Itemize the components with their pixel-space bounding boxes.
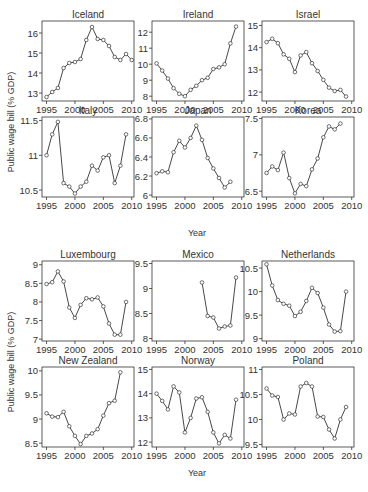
data-point-marker	[124, 300, 128, 304]
x-tick-label: 2010	[231, 200, 252, 211]
x-tick-label: 2005	[203, 344, 224, 355]
y-tick-label: 11	[28, 150, 38, 161]
data-point-marker	[183, 431, 187, 435]
x-tick-label: 1995	[256, 200, 277, 211]
data-point-marker	[287, 57, 291, 61]
panel-title: Luxembourg	[60, 249, 116, 260]
data-point-marker	[327, 323, 331, 327]
x-axis-label-top: Year	[188, 228, 206, 238]
y-tick-label: 6.6	[135, 132, 148, 143]
data-point-marker	[276, 298, 280, 302]
small-multiples-figure: Public wage bill (% GDP) Year Public wag…	[0, 0, 368, 492]
y-tick-label: 8.5	[135, 308, 148, 319]
x-tick-label: 2000	[64, 450, 85, 461]
data-point-marker	[293, 314, 297, 318]
y-tick-label: 7	[253, 149, 258, 160]
data-point-marker	[265, 171, 269, 175]
data-point-marker	[166, 170, 170, 174]
data-point-marker	[339, 329, 343, 333]
data-point-marker	[316, 291, 320, 295]
data-point-marker	[183, 94, 187, 98]
data-point-marker	[223, 325, 227, 329]
data-point-marker	[217, 327, 221, 331]
panel-frame	[152, 261, 244, 341]
series-line	[202, 278, 236, 329]
x-tick-label: 2010	[341, 450, 362, 461]
data-point-marker	[229, 180, 233, 184]
data-point-marker	[67, 424, 71, 428]
y-tick-label: 9	[33, 414, 38, 425]
x-tick-label: 1995	[146, 104, 167, 115]
data-point-marker	[96, 37, 100, 41]
data-point-marker	[113, 333, 117, 337]
x-tick-label: 2000	[284, 344, 305, 355]
data-point-marker	[189, 88, 193, 92]
x-tick-label: 2000	[64, 200, 85, 211]
data-point-marker	[79, 303, 83, 307]
y-tick-label: 13	[27, 88, 38, 99]
y-tick-label: 10.5	[20, 185, 39, 196]
data-point-marker	[183, 146, 187, 150]
data-point-marker	[217, 66, 221, 70]
data-point-marker	[130, 58, 134, 62]
panel-title: Ireland	[183, 9, 214, 20]
data-point-marker	[344, 95, 348, 99]
data-point-marker	[223, 186, 227, 190]
y-tick-label: 7	[33, 334, 38, 345]
panel-title: Korea	[295, 105, 322, 116]
data-point-marker	[322, 136, 326, 140]
data-point-marker	[124, 52, 128, 56]
data-point-marker	[107, 401, 111, 405]
y-tick-label: 9.5	[245, 439, 258, 450]
y-tick-label: 12	[137, 437, 148, 448]
data-point-marker	[45, 282, 49, 286]
data-point-marker	[62, 410, 66, 414]
x-tick-label: 2000	[174, 344, 195, 355]
data-point-marker	[73, 192, 77, 196]
panel-frame	[42, 117, 134, 197]
x-tick-label: 2010	[121, 450, 142, 461]
data-point-marker	[119, 333, 123, 337]
y-tick-label: 10	[247, 414, 258, 425]
data-point-marker	[119, 371, 123, 375]
data-point-marker	[200, 281, 204, 285]
x-tick-label: 2005	[313, 344, 334, 355]
panel-frame	[152, 21, 244, 101]
data-point-marker	[155, 62, 159, 66]
data-point-marker	[327, 428, 331, 432]
data-point-marker	[160, 399, 164, 403]
y-tick-label: 10.5	[240, 389, 259, 400]
data-point-marker	[79, 442, 83, 446]
y-tick-label: 8	[33, 296, 38, 307]
data-point-marker	[96, 296, 100, 300]
data-point-marker	[113, 181, 117, 185]
y-tick-label: 9.5	[245, 310, 258, 321]
data-point-marker	[206, 156, 210, 160]
data-point-marker	[96, 427, 100, 431]
data-point-marker	[102, 305, 106, 309]
data-point-marker	[333, 128, 337, 132]
data-point-marker	[124, 133, 128, 137]
data-point-marker	[212, 316, 216, 320]
data-point-marker	[316, 69, 320, 73]
x-tick-label: 2010	[121, 200, 142, 211]
series-line	[267, 39, 347, 97]
y-tick-label: 10	[137, 59, 148, 70]
data-point-marker	[56, 270, 60, 274]
y-tick-label: 12	[247, 87, 258, 98]
data-point-marker	[45, 411, 49, 415]
y-tick-label: 13	[247, 64, 258, 75]
x-tick-label: 2005	[93, 200, 114, 211]
data-point-marker	[293, 413, 297, 417]
data-point-marker	[212, 431, 216, 435]
y-tick-label: 8	[143, 333, 148, 344]
data-point-marker	[270, 165, 274, 169]
data-point-marker	[304, 50, 308, 54]
panel-title: Japan	[184, 105, 211, 116]
data-point-marker	[155, 171, 159, 175]
y-tick-label: 6.4	[135, 152, 148, 163]
panel-norway: Norway121314151995200020052010	[137, 355, 252, 461]
data-point-marker	[206, 410, 210, 414]
x-tick-label: 2000	[174, 450, 195, 461]
x-tick-label: 2005	[203, 450, 224, 461]
